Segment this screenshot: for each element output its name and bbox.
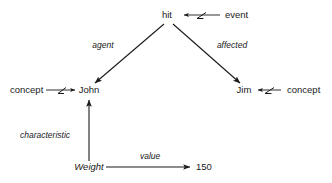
node-jim: Jim (237, 84, 252, 95)
node-weight: Weight (74, 161, 104, 172)
isa-tick-icon (265, 88, 274, 94)
edge-agent: agent (92, 24, 164, 83)
node-event: event (225, 9, 249, 20)
edge-affected-line (173, 24, 240, 83)
edge-characteristic: characteristic (20, 100, 89, 161)
edge-isa-jim (258, 88, 281, 94)
edge-agent-label: agent (92, 40, 114, 50)
edge-characteristic-label: characteristic (20, 130, 71, 140)
node-concept-left: concept (10, 84, 44, 95)
isa-tick-icon (197, 13, 206, 19)
node-concept-right: concept (287, 84, 321, 95)
isa-tick-icon (58, 88, 66, 94)
edge-agent-line (95, 24, 164, 83)
diagram-canvas: agent affected characteristic (0, 0, 332, 183)
edge-value: value (106, 151, 190, 167)
edge-affected: affected (173, 24, 247, 83)
node-value-150: 150 (196, 161, 212, 172)
edge-affected-label: affected (217, 40, 248, 50)
node-john: John (79, 84, 100, 95)
semantic-network-diagram: agent affected characteristic (0, 0, 332, 183)
edge-isa-event (184, 13, 220, 19)
node-hit: hit (162, 9, 172, 20)
edge-isa-john (46, 88, 75, 94)
edge-value-label: value (140, 151, 161, 161)
